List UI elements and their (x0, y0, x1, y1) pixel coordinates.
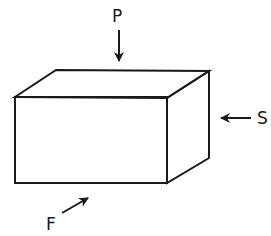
arrow-up-right-icon (62, 198, 88, 213)
box-right-face (167, 71, 209, 183)
force-f: F (46, 198, 88, 234)
force-label-f: F (46, 214, 56, 234)
box (15, 70, 209, 183)
box-front-face (15, 97, 167, 183)
box-top-face (15, 70, 209, 98)
force-s: S (221, 108, 268, 128)
force-p: P (112, 6, 122, 61)
diagram-svg: P S F (0, 0, 271, 236)
force-label-s: S (257, 108, 268, 128)
force-label-p: P (112, 6, 122, 26)
force-diagram: P S F (0, 0, 271, 236)
